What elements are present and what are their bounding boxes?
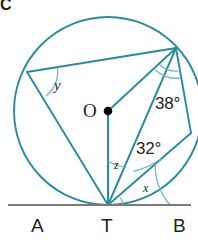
label-point-a: A: [31, 216, 44, 235]
circle-geometry-svg: [0, 0, 198, 245]
chord-upper-right-to-right: [176, 48, 191, 133]
label-angle-38: 38°: [155, 95, 180, 112]
label-angle-x: x: [143, 182, 148, 194]
angle-arc-32: [133, 159, 161, 172]
label-angle-y: y: [54, 78, 61, 93]
center-dot: [104, 107, 113, 116]
chord-tangent-point-to-upper-right: [108, 48, 176, 205]
label-point-t: T: [101, 216, 113, 235]
label-point-b: B: [173, 216, 186, 235]
label-center-o: O: [83, 101, 97, 120]
chord-left-to-tangent-point: [27, 72, 108, 205]
figure-root: C O: [0, 0, 198, 245]
label-angle-32: 32°: [136, 140, 161, 157]
label-angle-z: z: [114, 159, 119, 171]
